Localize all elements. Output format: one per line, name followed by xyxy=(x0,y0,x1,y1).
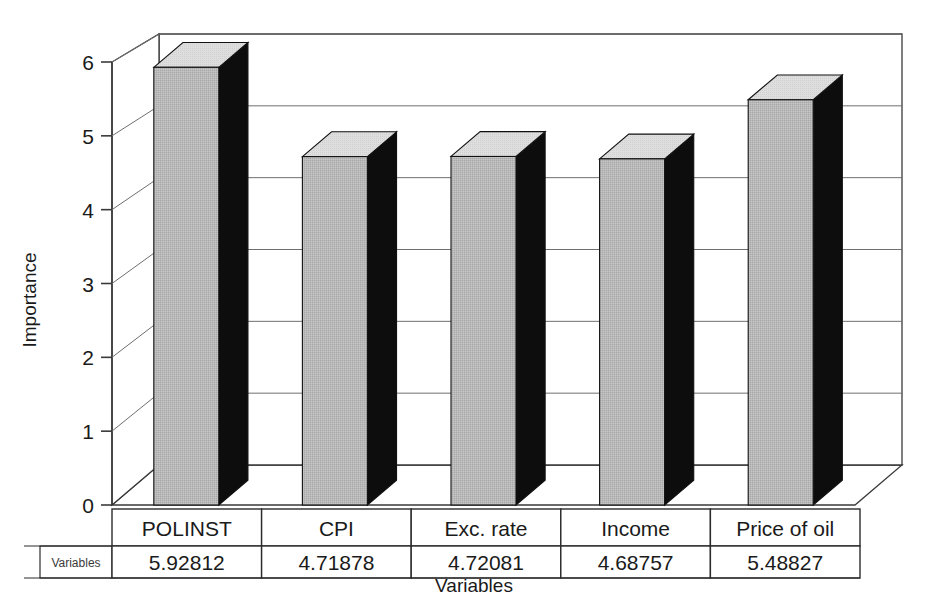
bar-chart-figure: 0123456 VariablesPOLINST5.92812CPI4.7187… xyxy=(0,0,927,612)
y-axis-tick-label: 4 xyxy=(82,199,94,222)
table-value-cell: 5.48827 xyxy=(747,551,823,574)
table-value-cell: 5.92812 xyxy=(149,551,225,574)
bar-cpi xyxy=(302,132,396,505)
y-axis-tick-label: 6 xyxy=(82,51,94,74)
table-header-cell: POLINST xyxy=(142,517,232,540)
table-header-cell: CPI xyxy=(319,517,354,540)
table-row-label: Variables xyxy=(51,556,100,570)
y-axis-ticks-group: 0123456 xyxy=(82,51,112,517)
table-header-cell: Exc. rate xyxy=(445,517,528,540)
bar-income xyxy=(600,134,694,505)
table-header-cell: Income xyxy=(601,517,670,540)
y-axis-tick-label: 1 xyxy=(82,420,94,443)
table-value-cell: 4.72081 xyxy=(448,551,524,574)
y-axis-title: Importance xyxy=(19,252,40,347)
table-value-cell: 4.68757 xyxy=(598,551,674,574)
chart-canvas: 0123456 VariablesPOLINST5.92812CPI4.7187… xyxy=(0,0,927,612)
data-table-group: VariablesPOLINST5.92812CPI4.71878Exc. ra… xyxy=(24,509,860,578)
table-value-cell: 4.71878 xyxy=(298,551,374,574)
bar-exc-rate xyxy=(451,132,545,505)
y-axis-tick-label: 2 xyxy=(82,346,94,369)
y-axis-tick-label: 5 xyxy=(82,125,94,148)
y-axis-tick-label: 0 xyxy=(82,494,94,517)
y-axis-tick-label: 3 xyxy=(82,273,94,296)
x-axis-title: Variables xyxy=(435,575,513,596)
bar-price-of-oil xyxy=(748,75,842,505)
table-header-cell: Price of oil xyxy=(736,517,834,540)
bar-polinst xyxy=(154,43,248,505)
